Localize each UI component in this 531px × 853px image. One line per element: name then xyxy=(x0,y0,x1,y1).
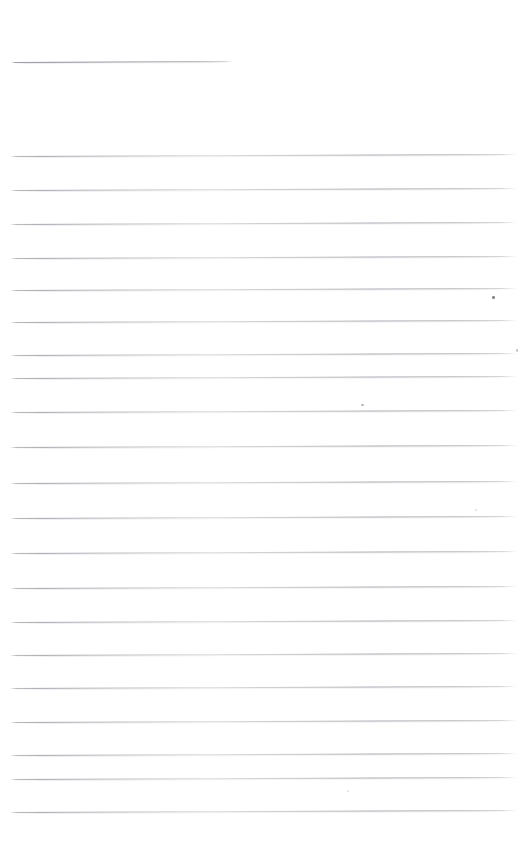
header-rule-ink xyxy=(11,61,233,63)
paper-surface xyxy=(0,0,531,853)
ruled-line xyxy=(10,516,517,519)
ruled-line-ink xyxy=(10,410,517,413)
header-rule xyxy=(11,61,233,63)
ruled-line xyxy=(10,376,517,379)
ruled-line-ink xyxy=(10,188,517,191)
ruled-line xyxy=(10,222,517,225)
ruled-line-halo xyxy=(10,446,517,449)
ruled-line-halo xyxy=(10,411,517,414)
ruled-line xyxy=(10,753,517,756)
scanned-page xyxy=(0,0,531,853)
speck-5-icon xyxy=(347,790,349,792)
ruled-line-ink xyxy=(10,154,517,157)
ruled-line-halo xyxy=(10,654,517,657)
ruled-line-halo xyxy=(10,552,517,555)
ruled-line-halo xyxy=(10,257,517,260)
ruled-line xyxy=(10,410,517,413)
ruled-line-ink xyxy=(10,288,517,291)
ruled-line-halo xyxy=(10,517,517,520)
ruled-line xyxy=(10,288,517,291)
ruled-line xyxy=(10,586,517,589)
ruled-line xyxy=(10,810,517,813)
ruled-line-ink xyxy=(10,653,517,656)
ruled-line-halo xyxy=(10,621,517,624)
ruled-line-ink xyxy=(10,320,517,323)
ruled-line-halo xyxy=(10,321,517,324)
ruled-line-halo xyxy=(10,587,517,590)
ruled-line-ink xyxy=(10,222,517,225)
ruled-line xyxy=(10,320,517,323)
speck-4-icon xyxy=(475,509,477,511)
ruled-line-ink xyxy=(10,753,517,756)
ruled-line xyxy=(10,777,517,780)
ruled-line-ink xyxy=(10,551,517,554)
ruled-line-halo xyxy=(10,354,517,357)
ruled-line-ink xyxy=(10,481,517,484)
ruled-line-ink xyxy=(10,720,517,723)
ruled-line-ink xyxy=(10,445,517,448)
ruled-line-ink xyxy=(10,686,517,689)
ruled-line xyxy=(10,256,517,259)
ruled-line-ink xyxy=(10,777,517,780)
ruled-line xyxy=(10,551,517,554)
ruled-line-halo xyxy=(10,155,517,158)
speck-2-icon xyxy=(516,349,518,352)
ruled-line-halo xyxy=(10,482,517,485)
ruled-line xyxy=(10,481,517,484)
speck-1-icon xyxy=(492,296,495,299)
header-rule-halo xyxy=(11,62,233,64)
ruled-line xyxy=(10,686,517,689)
ruled-line xyxy=(10,188,517,191)
ruled-line-halo xyxy=(10,377,517,380)
ruled-line-ink xyxy=(10,353,517,356)
ruled-line-halo xyxy=(10,721,517,724)
ruled-line-ink xyxy=(10,620,517,623)
ruled-line-ink xyxy=(10,516,517,519)
ruled-line-ink xyxy=(10,376,517,379)
ruled-line-ink xyxy=(10,586,517,589)
ruled-line-halo xyxy=(10,778,517,781)
ruled-line xyxy=(10,620,517,623)
ruled-line xyxy=(10,445,517,448)
ruled-line xyxy=(10,154,517,157)
ruled-line-halo xyxy=(10,811,517,814)
ruled-line-halo xyxy=(10,687,517,690)
ruled-line-ink xyxy=(10,810,517,813)
ruled-line-ink xyxy=(10,256,517,259)
ruled-line-halo xyxy=(10,189,517,192)
ruled-line xyxy=(10,720,517,723)
speck-3-icon xyxy=(361,404,364,406)
ruled-line xyxy=(10,653,517,656)
ruled-line-halo xyxy=(10,289,517,292)
ruled-line xyxy=(10,353,517,356)
ruled-line-halo xyxy=(10,223,517,226)
ruled-line-halo xyxy=(10,754,517,757)
